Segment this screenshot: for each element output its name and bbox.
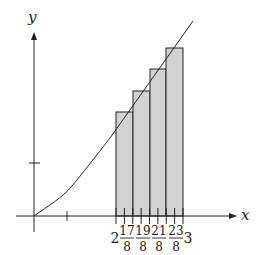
riemann-rectangle — [166, 48, 183, 216]
tick-label-numerator: 17 — [119, 224, 134, 238]
tick-label-denominator: 8 — [139, 240, 147, 254]
tick-label: 3 — [184, 230, 193, 246]
riemann-rectangle — [116, 112, 133, 216]
tick-label-denominator: 8 — [123, 240, 131, 254]
riemann-rectangle — [133, 91, 150, 216]
tick-label: 2 — [111, 230, 120, 246]
tick-label-numerator: 19 — [135, 224, 150, 238]
tick-label-numerator: 21 — [151, 224, 166, 238]
riemann-rectangles — [116, 48, 183, 216]
riemann-sum-diagram: x y 21781982182383 — [0, 0, 259, 255]
tick-label-denominator: 8 — [155, 240, 163, 254]
tick-label-denominator: 8 — [172, 240, 180, 254]
y-axis-arrow-icon — [31, 32, 37, 40]
y-axis-label: y — [27, 8, 37, 26]
x-axis-arrow-icon — [229, 213, 237, 219]
x-tick-labels: 21781982182383 — [111, 224, 193, 254]
tick-label-numerator: 23 — [168, 224, 183, 238]
riemann-rectangle — [150, 69, 166, 216]
x-axis-label: x — [241, 206, 250, 224]
